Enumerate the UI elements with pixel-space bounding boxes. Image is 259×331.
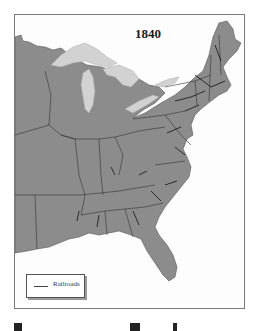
map-title: 1840	[135, 26, 161, 42]
map-frame: 1840 Railroads	[14, 14, 245, 309]
cutoff-text-fragment	[173, 323, 177, 331]
cutoff-text-fragment	[130, 323, 140, 331]
railroad-line-icon	[34, 286, 48, 287]
map-legend: Railroads	[26, 274, 85, 298]
cutoff-text-fragment	[14, 323, 22, 331]
eastern-us-map	[15, 15, 244, 308]
lake-ontario	[155, 77, 179, 87]
land-mass	[15, 21, 241, 281]
legend-label-railroads: Railroads	[53, 280, 80, 288]
